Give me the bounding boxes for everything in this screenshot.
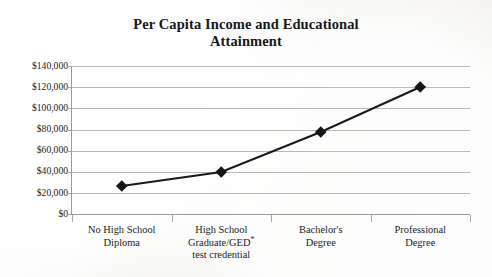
gridline-80000 [72,130,470,131]
chart-title: Per Capita Income and Educational Attain… [0,16,492,50]
plot-area [72,66,470,214]
x-tick-mark-2 [271,215,272,222]
x-tick-mark-4 [470,215,471,222]
x-category-label-2: Bachelor's Degree [271,224,371,249]
x-tick-mark-1 [172,215,173,222]
y-axis-line [71,66,72,215]
gridline-100000 [72,108,470,109]
y-tick-label-140000: $140,000 [2,60,68,71]
y-axis-labels: $140,000 $120,000 $100,000 $80,000 $60,0… [0,0,68,277]
y-tick-label-80000: $80,000 [2,123,68,134]
gridline-20000 [72,193,470,194]
footnote-asterisk: * [250,234,254,243]
y-tick-label-100000: $100,000 [2,102,68,113]
gridline-140000 [72,66,470,67]
x-tick-mark-0 [72,215,73,222]
y-tick-label-20000: $20,000 [2,187,68,198]
y-tick-label-0: $0 [2,208,68,219]
y-tick-label-40000: $40,000 [2,165,68,176]
x-axis-labels: No High School Diploma High School Gradu… [72,224,470,274]
x-category-label-3: Professional Degree [371,224,471,249]
chart-title-line-2: Attainment [0,33,492,50]
x-category-0-line-2: Diploma [72,237,172,250]
y-tick-label-60000: $60,000 [2,144,68,155]
x-category-1-line-3: test credential [172,249,272,262]
x-category-label-0: No High School Diploma [72,224,172,249]
chart-title-line-1: Per Capita Income and Educational [0,16,492,33]
gridline-120000 [72,87,470,88]
x-tick-mark-3 [371,215,372,222]
gridline-60000 [72,151,470,152]
x-category-1-line-2: Graduate/GED* [172,237,272,250]
x-category-label-1: High School Graduate/GED* test credentia… [172,224,272,262]
x-category-0-line-1: No High School [72,224,172,237]
chart-figure: Per Capita Income and Educational Attain… [0,0,492,277]
gridline-40000 [72,172,470,173]
x-category-2-line-1: Bachelor's [271,224,371,237]
x-category-2-line-2: Degree [271,237,371,250]
x-category-1-line-1: High School [172,224,272,237]
x-category-3-line-1: Professional [371,224,471,237]
x-category-3-line-2: Degree [371,237,471,250]
y-tick-label-120000: $120,000 [2,81,68,92]
